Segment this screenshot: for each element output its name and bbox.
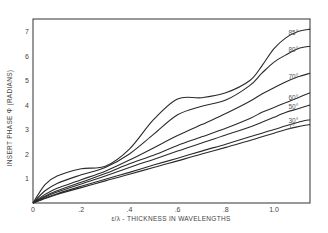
curve-30deg (33, 120, 310, 203)
y-tick-label: 5 (25, 77, 29, 84)
curve-label-50deg: 50° (288, 103, 298, 110)
curve-label-85deg: 85° (288, 29, 298, 36)
phase-vs-thickness-chart: 85°80°70°60°50°30°1° 0.2.4.6.81.0 123456… (0, 0, 328, 233)
x-tick-label: 0 (31, 206, 35, 213)
y-tick-label: 1 (25, 175, 29, 182)
curve-70deg (33, 73, 310, 203)
curve-1deg (33, 125, 310, 203)
x-tick-label: .4 (126, 206, 132, 213)
y-tick-label: 2 (25, 151, 29, 158)
y-axis-label: INSERT PHASE Φ (RADIANS) (6, 70, 14, 167)
y-tick-label: 7 (25, 28, 29, 35)
curve-label-1deg: 1° (288, 123, 295, 130)
x-tick-label: .6 (175, 206, 181, 213)
x-axis-label: ε/λ - THICKNESS IN WAVELENGTHS (111, 215, 231, 222)
curve-label-80deg: 80° (288, 46, 298, 53)
y-tick-label: 3 (25, 126, 29, 133)
y-axis-ticks: 1234567 (25, 28, 29, 182)
curve-labels-group: 85°80°70°60°50°30°1° (288, 29, 298, 130)
curve-label-70deg: 70° (288, 73, 298, 80)
y-tick-label: 6 (25, 53, 29, 60)
curves-group (33, 29, 310, 203)
y-tick-label: 4 (25, 102, 29, 109)
curve-80deg (33, 46, 310, 203)
x-axis-ticks: 0.2.4.6.81.0 (31, 206, 279, 213)
x-tick-label: .2 (78, 206, 84, 213)
x-tick-label: 1.0 (269, 206, 279, 213)
plot-frame (33, 19, 310, 203)
x-tick-label: .8 (223, 206, 229, 213)
curve-label-60deg: 60° (288, 94, 298, 101)
